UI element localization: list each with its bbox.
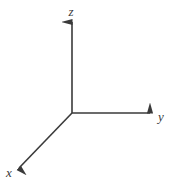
x-axis-line xyxy=(19,113,72,168)
x-axis-label: x xyxy=(5,165,12,180)
y-axis-label: y xyxy=(156,109,164,124)
coordinate-axes-figure: z y x xyxy=(0,0,174,187)
axes-diagram-svg: z y x xyxy=(0,0,174,187)
z-axis-label: z xyxy=(67,4,73,19)
